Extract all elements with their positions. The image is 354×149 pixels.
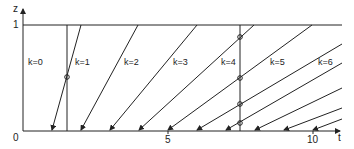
origin-label: 0	[13, 133, 19, 143]
characteristic-line-3	[110, 25, 197, 130]
characteristics-diagram: z t 1 0 5 10 k=0 k=1 k=2 k=3 k=4 k=5 k=6	[0, 0, 354, 149]
t-tick-5: 5	[165, 135, 171, 145]
characteristic-line-10	[313, 119, 342, 130]
region-label-k1: k=1	[75, 57, 90, 67]
region-label-k0: k=0	[28, 57, 43, 67]
z-tick-1: 1	[13, 20, 19, 30]
region-label-k5: k=5	[270, 57, 285, 67]
characteristic-line-2	[81, 25, 138, 130]
region-label-k4: k=4	[221, 57, 236, 67]
region-label-k2: k=2	[124, 57, 139, 67]
region-label-k6: k=6	[318, 57, 333, 67]
region-label-k3: k=3	[173, 57, 188, 67]
t-tick-10: 10	[307, 135, 318, 145]
t-axis-label: t	[338, 133, 341, 143]
diagram-canvas	[0, 0, 354, 149]
characteristic-line-4	[139, 25, 254, 130]
z-axis-label: z	[13, 4, 18, 14]
